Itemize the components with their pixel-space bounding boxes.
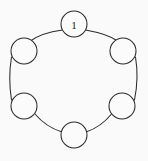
node-top-label: 1 (71, 19, 77, 31)
node-upper-left-circle[interactable] (11, 38, 37, 64)
node-lower-right[interactable] (109, 93, 135, 119)
edge-upper-left-to-top (31, 30, 63, 41)
node-upper-right[interactable] (110, 38, 136, 64)
node-lower-right-circle[interactable] (109, 93, 135, 119)
edge-lower-left-to-upper-left (10, 57, 12, 100)
node-bottom-circle[interactable] (61, 122, 87, 148)
node-upper-left[interactable] (11, 38, 37, 64)
node-lower-left-circle[interactable] (11, 93, 37, 119)
node-layer: 1 (11, 11, 136, 148)
edge-lower-right-to-bottom (86, 114, 112, 132)
edge-upper-right-to-lower-right (135, 57, 138, 100)
cycle-graph-svg: 1 (0, 0, 148, 161)
node-top[interactable]: 1 (61, 11, 87, 37)
node-bottom[interactable] (61, 122, 87, 148)
node-lower-left[interactable] (11, 93, 37, 119)
edge-bottom-to-lower-left (35, 114, 62, 132)
edge-top-to-upper-right (86, 30, 118, 41)
node-upper-right-circle[interactable] (110, 38, 136, 64)
diagram-canvas: 1 (0, 0, 148, 161)
